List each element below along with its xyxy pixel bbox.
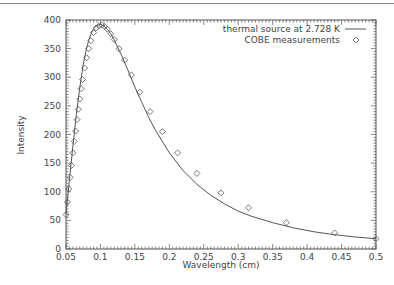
legend: thermal source at 2.728 K COBE measureme… bbox=[223, 24, 366, 45]
x-tick-label: 0.1 bbox=[93, 252, 107, 262]
legend-marker-label: COBE measurements bbox=[244, 35, 340, 45]
cobe-marker-diamond-icon bbox=[73, 128, 79, 134]
y-tick-label: 200 bbox=[44, 130, 61, 140]
y-tick-label: 50 bbox=[50, 215, 62, 225]
y-tick-label: 300 bbox=[44, 72, 61, 82]
y-axis-label: Intensity bbox=[16, 115, 26, 155]
x-tick-label: 0.2 bbox=[162, 252, 176, 262]
x-tick-label: 0.35 bbox=[263, 252, 283, 262]
cobe-marker-diamond-icon bbox=[246, 205, 252, 211]
y-tick-label: 400 bbox=[44, 15, 61, 25]
x-tick-label: 0.4 bbox=[300, 252, 315, 262]
y-tick-label: 150 bbox=[44, 158, 61, 168]
x-tick-label: 0.45 bbox=[332, 252, 352, 262]
x-tick-label: 0.5 bbox=[369, 252, 383, 262]
cobe-marker-diamond-icon bbox=[159, 129, 165, 135]
legend-diamond-icon bbox=[353, 37, 359, 43]
axis-ticks bbox=[66, 20, 376, 249]
x-axis-label: Wavelength (cm) bbox=[183, 260, 260, 270]
y-tick-label: 100 bbox=[44, 187, 61, 197]
y-tick-label: 350 bbox=[44, 44, 61, 54]
cobe-marker-diamond-icon bbox=[218, 190, 224, 196]
cobe-marker-diamond-icon bbox=[74, 117, 80, 123]
plot-border bbox=[66, 20, 376, 249]
y-tick-label: 250 bbox=[44, 101, 61, 111]
cobe-marker-diamond-icon bbox=[194, 170, 200, 176]
legend-line-label: thermal source at 2.728 K bbox=[223, 24, 341, 34]
cobe-marker-diamond-icon bbox=[71, 138, 77, 144]
plot-frame bbox=[66, 20, 376, 249]
cobe-marker-diamond-icon bbox=[147, 109, 153, 115]
chart: 0.050.10.150.20.250.30.350.40.450.5 0501… bbox=[0, 0, 394, 285]
cobe-markers bbox=[63, 22, 379, 242]
cobe-marker-diamond-icon bbox=[283, 220, 289, 226]
y-tick-labels: 050100150200250300350400 bbox=[44, 15, 61, 254]
y-tick-label: 0 bbox=[55, 244, 61, 254]
x-tick-label: 0.15 bbox=[125, 252, 145, 262]
cobe-marker-diamond-icon bbox=[175, 150, 181, 156]
thermal-source-curve bbox=[66, 25, 376, 239]
